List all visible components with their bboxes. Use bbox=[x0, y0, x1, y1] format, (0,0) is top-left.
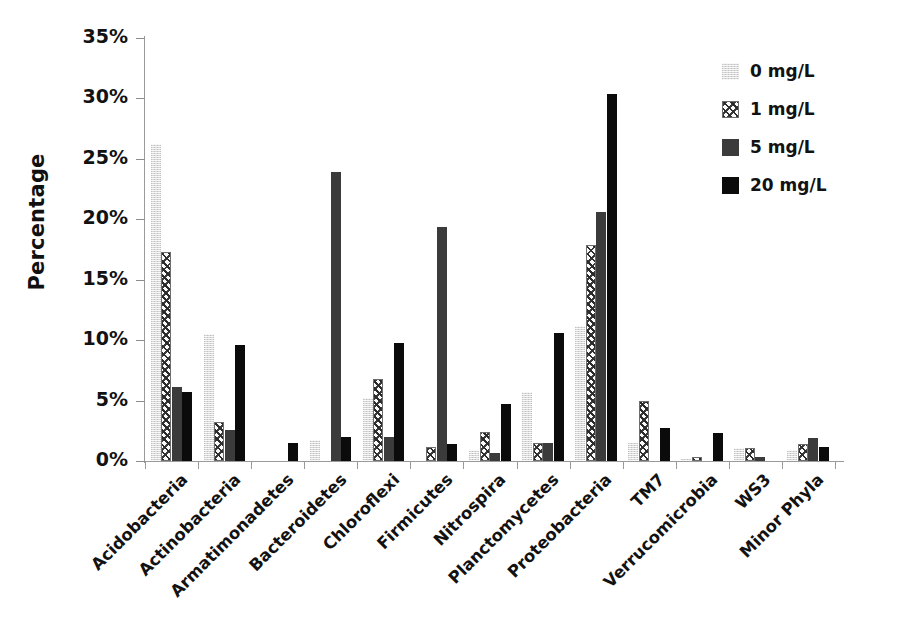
bar bbox=[660, 428, 670, 461]
bar-group bbox=[416, 38, 458, 461]
legend-label: 20 mg/L bbox=[750, 175, 827, 195]
y-axis-tick-label: 10% bbox=[38, 327, 128, 349]
bar bbox=[734, 448, 744, 461]
x-axis-tick bbox=[145, 461, 146, 469]
bar-group bbox=[469, 38, 511, 461]
legend-item: 0 mg/L bbox=[722, 52, 882, 90]
bar bbox=[639, 401, 649, 461]
bar bbox=[533, 443, 543, 461]
bar bbox=[235, 345, 245, 461]
bar-group bbox=[257, 38, 299, 461]
bar bbox=[586, 245, 596, 461]
x-axis-tick bbox=[357, 461, 358, 469]
y-axis-tick bbox=[136, 159, 145, 160]
bar bbox=[331, 172, 341, 461]
bar bbox=[554, 333, 564, 461]
bar bbox=[172, 387, 182, 461]
x-axis-tick bbox=[782, 461, 783, 469]
x-axis-tick bbox=[463, 461, 464, 469]
legend-label: 5 mg/L bbox=[750, 137, 815, 157]
bar bbox=[607, 94, 617, 461]
legend-swatch-icon bbox=[722, 101, 739, 118]
bar-group bbox=[363, 38, 405, 461]
legend-swatch-icon bbox=[722, 177, 739, 194]
x-axis-tick bbox=[835, 461, 836, 469]
bar bbox=[182, 392, 192, 461]
bar bbox=[522, 392, 532, 461]
bar-group bbox=[151, 38, 193, 461]
bar bbox=[151, 144, 161, 461]
x-axis-tick bbox=[570, 461, 571, 469]
bar bbox=[204, 334, 214, 461]
y-axis-tick-label: 20% bbox=[38, 206, 128, 228]
bar bbox=[394, 343, 404, 461]
chart-legend: 0 mg/L1 mg/L5 mg/L20 mg/L bbox=[722, 52, 882, 204]
bar bbox=[490, 453, 500, 461]
y-axis-tick-label: 0% bbox=[38, 448, 128, 470]
bar bbox=[798, 444, 808, 461]
bar bbox=[341, 437, 351, 461]
y-axis-tick bbox=[136, 219, 145, 220]
bar bbox=[161, 252, 171, 461]
x-axis-tick bbox=[623, 461, 624, 469]
legend-label: 1 mg/L bbox=[750, 99, 815, 119]
x-axis-tick bbox=[729, 461, 730, 469]
bar bbox=[437, 227, 447, 461]
legend-item: 20 mg/L bbox=[722, 166, 882, 204]
bar bbox=[384, 437, 394, 461]
bar bbox=[628, 443, 638, 461]
x-axis-tick bbox=[676, 461, 677, 469]
bar-group bbox=[575, 38, 617, 461]
bar bbox=[469, 450, 479, 461]
bar-group bbox=[204, 38, 246, 461]
bar bbox=[575, 326, 585, 461]
bar bbox=[681, 459, 691, 461]
x-axis-tick bbox=[410, 461, 411, 469]
y-axis-tick-label: 15% bbox=[38, 267, 128, 289]
bar bbox=[480, 432, 490, 461]
bar bbox=[745, 448, 755, 461]
bar bbox=[819, 447, 829, 462]
legend-item: 1 mg/L bbox=[722, 90, 882, 128]
legend-swatch-icon bbox=[722, 139, 739, 156]
y-axis-tick bbox=[136, 98, 145, 99]
bar-group bbox=[628, 38, 670, 461]
bar bbox=[225, 430, 235, 461]
bar bbox=[288, 443, 298, 461]
bar bbox=[310, 440, 320, 461]
bar bbox=[363, 398, 373, 461]
bar bbox=[692, 457, 702, 461]
bar bbox=[501, 404, 511, 461]
bar bbox=[447, 444, 457, 461]
bar-chart: Percentage 0%5%10%15%20%25%30%35% Acidob… bbox=[0, 0, 902, 630]
legend-item: 5 mg/L bbox=[722, 128, 882, 166]
x-axis-tick bbox=[517, 461, 518, 469]
bar bbox=[543, 443, 553, 461]
legend-label: 0 mg/L bbox=[750, 61, 815, 81]
bar bbox=[755, 457, 765, 461]
y-axis-tick-label: 5% bbox=[38, 388, 128, 410]
bar bbox=[214, 422, 224, 461]
bar-group bbox=[310, 38, 352, 461]
bar bbox=[426, 447, 436, 462]
bar-group bbox=[522, 38, 564, 461]
bar-group bbox=[681, 38, 723, 461]
bar bbox=[808, 438, 818, 461]
x-axis-tick bbox=[198, 461, 199, 469]
y-axis-tick bbox=[136, 280, 145, 281]
x-axis-tick bbox=[304, 461, 305, 469]
bar bbox=[713, 433, 723, 461]
x-axis-tick bbox=[251, 461, 252, 469]
y-axis-tick bbox=[136, 461, 145, 462]
y-axis-tick bbox=[136, 401, 145, 402]
y-axis-tick-label: 30% bbox=[38, 85, 128, 107]
y-axis-tick bbox=[136, 38, 145, 39]
legend-swatch-icon bbox=[722, 63, 739, 80]
y-axis-tick-label: 35% bbox=[38, 25, 128, 47]
y-axis-tick bbox=[136, 340, 145, 341]
bar bbox=[596, 212, 606, 461]
bar bbox=[787, 450, 797, 461]
y-axis-tick-label: 25% bbox=[38, 146, 128, 168]
x-axis-line bbox=[144, 461, 844, 462]
bar bbox=[373, 379, 383, 461]
